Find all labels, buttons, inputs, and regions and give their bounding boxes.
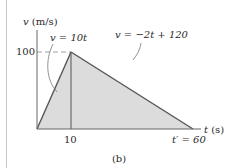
figure-frame: v (m/s) t (s) 100 10 t′ = 60 v = 10t v =…: [0, 0, 233, 168]
figure-caption: (b): [112, 153, 126, 164]
y-axis-label: v (m/s): [23, 16, 58, 27]
area-under-curve: [37, 52, 193, 129]
leader-line-fall: [133, 43, 141, 60]
x-tick-end: t′ = 60: [172, 134, 206, 145]
leader-line-rise: [48, 44, 57, 92]
x-tick-10: 10: [64, 134, 77, 145]
equation-fall: v = −2t + 120: [115, 29, 189, 40]
x-axis-label: t (s): [204, 124, 224, 135]
velocity-time-graph: v (m/s) t (s) 100 10 t′ = 60 v = 10t v =…: [0, 0, 233, 168]
y-tick-100: 100: [16, 46, 35, 57]
equation-rise: v = 10t: [50, 32, 88, 43]
